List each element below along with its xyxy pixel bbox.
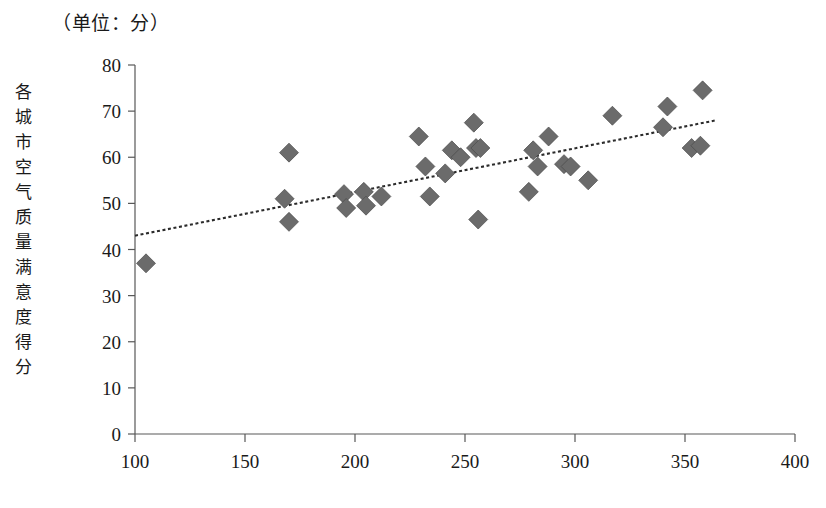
- x-tick-label: 350: [671, 451, 700, 472]
- x-tick-labels-group: 100150200250300350400: [121, 451, 810, 472]
- y-tick-label: 10: [102, 378, 121, 399]
- data-point-marker: [372, 187, 391, 206]
- data-point-marker: [539, 127, 558, 146]
- data-point-marker: [337, 198, 356, 217]
- y-tick-label: 70: [102, 101, 121, 122]
- data-point-marker: [469, 210, 488, 229]
- data-point-marker: [654, 118, 673, 137]
- y-tick-label: 40: [102, 240, 121, 261]
- data-point-marker: [280, 212, 299, 231]
- plot-area: 01020304050607080 100150200250300350400: [0, 0, 826, 508]
- y-tick-label: 60: [102, 147, 121, 168]
- x-tick-label: 200: [341, 451, 370, 472]
- x-tick-label: 250: [451, 451, 480, 472]
- data-point-marker: [357, 196, 376, 215]
- x-tick-label: 300: [561, 451, 590, 472]
- data-point-marker: [528, 157, 547, 176]
- data-point-marker: [658, 97, 677, 116]
- data-point-marker: [519, 182, 538, 201]
- data-point-marker: [416, 157, 435, 176]
- x-tick-label: 150: [231, 451, 260, 472]
- y-tick-labels-group: 01020304050607080: [102, 55, 121, 445]
- y-tick-label: 80: [102, 55, 121, 76]
- data-point-marker: [280, 143, 299, 162]
- tick-marks-group: [128, 65, 795, 442]
- axes-group: [135, 65, 795, 434]
- data-point-marker: [603, 106, 622, 125]
- y-tick-label: 50: [102, 193, 121, 214]
- data-point-marker: [137, 254, 156, 273]
- data-point-marker: [409, 127, 428, 146]
- y-tick-label: 20: [102, 332, 121, 353]
- data-point-marker: [436, 164, 455, 183]
- data-points-group: [137, 81, 713, 273]
- x-tick-label: 400: [781, 451, 810, 472]
- data-point-marker: [579, 171, 598, 190]
- x-tick-label: 100: [121, 451, 150, 472]
- scatter-chart-figure: （单位：分） 各城市空气质量满意度得分 01020304050607080 10…: [0, 0, 826, 508]
- y-tick-label: 0: [112, 424, 122, 445]
- data-point-marker: [420, 187, 439, 206]
- data-point-marker: [693, 81, 712, 100]
- data-point-marker: [464, 113, 483, 132]
- y-tick-label: 30: [102, 286, 121, 307]
